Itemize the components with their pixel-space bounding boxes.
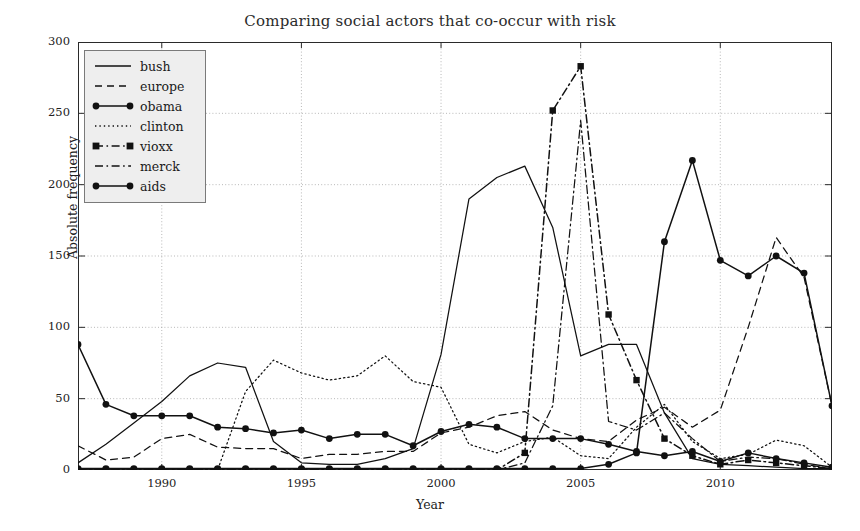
legend-item-obama[interactable]: obama [89,96,201,116]
marker-square-vioxx [661,435,667,441]
legend-marker-obama [127,103,134,110]
marker-square-vioxx [522,450,528,456]
chart-legend: busheuropeobamaclintonvioxxmerckaids [84,50,206,203]
marker-circle-aids [382,431,389,438]
series-line-obama [78,160,832,468]
series-line-bush [78,166,832,468]
marker-circle-aids [78,341,81,348]
marker-square-vioxx [550,107,556,113]
marker-circle-obama [801,270,808,277]
y-tick-label: 100 [26,319,70,333]
legend-symbol-merck [89,157,137,175]
legend-item-bush[interactable]: bush [89,56,201,76]
marker-circle-aids [717,458,724,465]
marker-circle-aids [298,427,305,434]
legend-symbol-bush [89,57,137,75]
y-tick-label: 50 [26,391,70,405]
marker-circle-aids [410,442,417,449]
legend-marker-aids [93,183,100,190]
chart-title: Comparing social actors that co-occur wi… [0,12,860,30]
series-aids [78,341,832,470]
marker-circle-aids [438,428,445,435]
marker-square-vioxx [605,311,611,317]
x-tick-label: 1990 [132,476,192,490]
legend-item-vioxx[interactable]: vioxx [89,136,201,156]
series-line-europe [78,237,832,460]
legend-label: vioxx [137,139,173,154]
x-tick-label: 1995 [271,476,331,490]
x-tick-label: 2010 [690,476,750,490]
marker-circle-aids [633,448,640,455]
legend-label: clinton [137,119,184,134]
y-tick-label: 0 [26,462,70,476]
marker-circle-aids [354,431,361,438]
x-axis-title: Year [0,497,860,512]
series-bush [78,166,832,468]
marker-circle-aids [661,452,668,459]
x-tick-label: 2005 [551,476,611,490]
marker-circle-aids [130,412,137,419]
legend-marker-vioxx [93,143,100,150]
legend-symbol-vioxx [89,137,137,155]
marker-circle-aids [773,455,780,462]
marker-circle-obama [577,465,584,470]
series-line-aids [78,344,832,467]
marker-circle-obama [689,157,696,164]
marker-circle-obama [745,273,752,280]
marker-circle-obama [829,402,832,409]
legend-item-merck[interactable]: merck [89,156,201,176]
marker-circle-aids [549,435,556,442]
legend-item-aids[interactable]: aids [89,176,201,196]
legend-label: aids [137,179,166,194]
legend-item-clinton[interactable]: clinton [89,116,201,136]
marker-circle-aids [326,435,333,442]
series-europe [78,237,832,460]
chart-figure: Comparing social actors that co-occur wi… [0,0,860,531]
marker-circle-aids [158,412,165,419]
legend-symbol-obama [89,97,137,115]
marker-circle-aids [745,449,752,456]
marker-circle-aids [186,412,193,419]
marker-circle-obama [717,257,724,264]
legend-label: merck [137,159,180,174]
marker-circle-aids [493,424,500,431]
legend-symbol-europe [89,77,137,95]
legend-symbol-aids [89,177,137,195]
legend-label: bush [137,59,171,74]
marker-circle-aids [605,441,612,448]
marker-circle-obama [605,461,612,468]
marker-circle-aids [214,424,221,431]
marker-square-vioxx [633,377,639,383]
y-tick-label: 150 [26,248,70,262]
legend-item-europe[interactable]: europe [89,76,201,96]
y-tick-label: 250 [26,105,70,119]
x-tick-label: 2000 [411,476,471,490]
marker-circle-aids [270,430,277,437]
legend-label: europe [137,79,184,94]
marker-circle-obama [773,253,780,260]
marker-circle-aids [577,435,584,442]
marker-circle-obama [661,238,668,245]
marker-square-vioxx [577,63,583,69]
marker-circle-aids [103,401,110,408]
marker-circle-obama [521,465,528,470]
marker-circle-aids [242,425,249,432]
marker-circle-obama [549,465,556,470]
series-obama [78,157,832,470]
marker-circle-aids [801,459,808,466]
y-tick-label: 300 [26,34,70,48]
legend-marker-vioxx [127,143,134,150]
legend-marker-aids [127,183,134,190]
marker-circle-aids [466,421,473,428]
marker-circle-aids [689,448,696,455]
legend-label: obama [137,99,182,114]
legend-symbol-clinton [89,117,137,135]
legend-marker-obama [93,103,100,110]
marker-circle-aids [521,435,528,442]
y-tick-label: 200 [26,177,70,191]
